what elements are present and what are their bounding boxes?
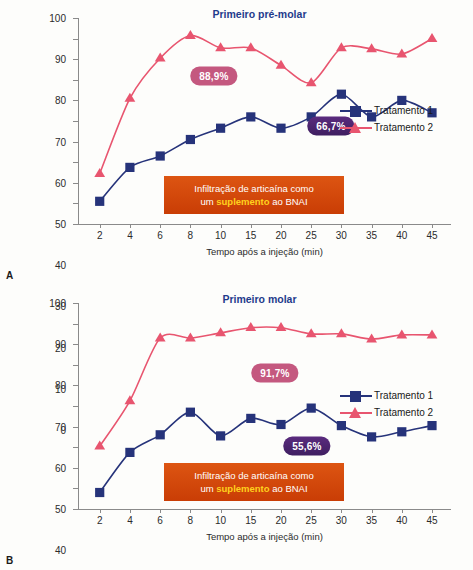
data-point-square <box>397 427 406 436</box>
x-tick-mark <box>221 224 222 228</box>
x-tick-mark <box>281 224 282 228</box>
data-point-square <box>367 432 376 441</box>
data-point-triangle <box>306 77 317 86</box>
x-tick-mark <box>311 224 312 228</box>
data-point-triangle <box>245 322 256 331</box>
annotation-box: Infiltração de articaína comoum suplemen… <box>164 463 344 501</box>
y-tick-mark: 20 <box>73 183 78 184</box>
data-point-square <box>95 488 104 497</box>
annotation-box: Infiltração de articaína comoum suplemen… <box>164 176 344 214</box>
data-point-square <box>125 448 134 457</box>
data-point-square <box>276 124 285 133</box>
y-tick-mark: 100 <box>73 18 78 19</box>
x-tick-label: 10 <box>215 515 226 526</box>
data-point-square <box>125 163 134 172</box>
legend-item[interactable]: Tratamento 2 <box>340 404 433 421</box>
data-point-square <box>337 90 346 99</box>
x-tick-mark <box>100 224 101 228</box>
y-tick-label: 40 <box>55 260 66 271</box>
x-tick-label: 40 <box>396 515 407 526</box>
x-tick-mark <box>402 509 403 513</box>
annotation-highlight: suplemento <box>216 196 269 207</box>
x-axis-title-b: Tempo após a injeção (min) <box>78 531 451 542</box>
y-tick-mark: 10 <box>73 488 78 489</box>
annotation-text-before: um <box>200 196 216 207</box>
data-point-square <box>216 431 225 440</box>
x-axis-title-a: Tempo após a injeção (min) <box>78 246 451 257</box>
y-tick-mark: 30 <box>73 447 78 448</box>
y-tick-mark: 90 <box>73 39 78 40</box>
figure-root: Primeiro pré-molar % de voluntários que … <box>0 0 473 570</box>
x-tick-mark <box>190 509 191 513</box>
x-tick-label: 15 <box>245 515 256 526</box>
chart-panel-b: Primeiro molar % de voluntários que não … <box>0 285 473 570</box>
legend-item[interactable]: Tratamento 1 <box>340 387 433 404</box>
y-tick-label: 90 <box>55 339 66 350</box>
y-tick-label: 60 <box>55 177 66 188</box>
annotation-line-2: um suplemento ao BNAI <box>174 482 334 495</box>
plot-area-b: 0102030405060708090100246810152025303540… <box>78 303 451 509</box>
callout-treatment2: 91,7% <box>251 364 298 383</box>
x-tick-label: 30 <box>336 515 347 526</box>
y-tick-label: 40 <box>55 545 66 556</box>
data-point-triangle <box>125 93 136 102</box>
y-tick-mark: 0 <box>73 509 78 510</box>
legend-item[interactable]: Tratamento 1 <box>340 102 433 119</box>
x-axis-line-a <box>78 224 451 225</box>
y-tick-mark: 30 <box>73 162 78 163</box>
y-tick-label: 70 <box>55 421 66 432</box>
legend-label: Tratamento 2 <box>374 407 433 418</box>
x-tick-label: 35 <box>366 515 377 526</box>
x-tick-label: 35 <box>366 230 377 241</box>
legend-square-icon <box>340 104 372 118</box>
x-tick-label: 6 <box>157 230 163 241</box>
x-tick-mark <box>130 509 131 513</box>
x-tick-label: 10 <box>215 230 226 241</box>
y-tick-mark: 40 <box>73 427 78 428</box>
annotation-text-before: um <box>200 483 216 494</box>
x-tick-mark <box>251 224 252 228</box>
callout-treatment2: 88,9% <box>190 67 237 86</box>
y-tick-mark: 100 <box>73 303 78 304</box>
data-point-square <box>246 112 255 121</box>
x-tick-label: 2 <box>97 230 103 241</box>
data-point-square <box>216 124 225 133</box>
y-tick-mark: 80 <box>73 59 78 60</box>
annotation-line-2: um suplemento ao BNAI <box>174 195 334 208</box>
x-tick-label: 45 <box>426 515 437 526</box>
legend-triangle-icon <box>340 121 372 135</box>
x-tick-label: 25 <box>306 515 317 526</box>
x-tick-mark <box>221 509 222 513</box>
y-tick-label: 100 <box>49 13 66 24</box>
y-tick-mark: 40 <box>73 142 78 143</box>
y-tick-mark: 0 <box>73 224 78 225</box>
legend-item[interactable]: Tratamento 2 <box>340 119 433 136</box>
y-tick-label: 70 <box>55 136 66 147</box>
x-tick-mark <box>281 509 282 513</box>
x-tick-label: 15 <box>245 230 256 241</box>
panel-letter-a: A <box>6 270 13 281</box>
y-tick-mark: 70 <box>73 80 78 81</box>
legend-triangle-icon <box>340 406 372 420</box>
y-tick-label: 80 <box>55 380 66 391</box>
y-tick-mark: 20 <box>73 468 78 469</box>
data-point-triangle <box>276 60 287 69</box>
data-point-triangle <box>427 33 438 42</box>
data-point-square <box>307 404 316 413</box>
legend-square-icon <box>340 389 372 403</box>
x-tick-mark <box>100 509 101 513</box>
x-tick-mark <box>372 224 373 228</box>
y-tick-mark: 60 <box>73 385 78 386</box>
y-tick-mark: 90 <box>73 324 78 325</box>
x-tick-label: 45 <box>426 230 437 241</box>
x-tick-mark <box>432 509 433 513</box>
x-tick-label: 4 <box>127 515 133 526</box>
data-point-triangle <box>185 30 196 39</box>
legend-label: Tratamento 1 <box>374 390 433 401</box>
y-tick-label: 90 <box>55 54 66 65</box>
y-tick-label: 50 <box>55 219 66 230</box>
panel-letter-b: B <box>6 555 13 566</box>
legend-label: Tratamento 2 <box>374 122 433 133</box>
x-tick-label: 40 <box>396 230 407 241</box>
annotation-text-after: ao BNAI <box>270 483 308 494</box>
